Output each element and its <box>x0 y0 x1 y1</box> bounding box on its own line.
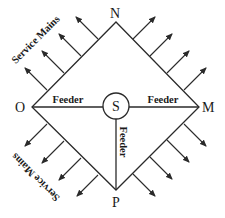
arrow-icon <box>167 51 189 73</box>
service-mains-label-upper: Service Mains <box>9 13 62 66</box>
arrow-icon <box>42 141 64 163</box>
arrow-icon <box>184 68 206 90</box>
node-label-n: N <box>110 6 120 21</box>
arrow-icon <box>150 34 172 56</box>
arrow-icon <box>77 175 98 196</box>
arrow-icon <box>59 158 81 180</box>
arrow-icon <box>76 17 98 39</box>
service-arrows-upper-left <box>25 17 98 90</box>
feeder-label-bottom: Feeder <box>118 127 129 158</box>
arrow-icon <box>184 124 206 146</box>
ring-main-diagram: S N M P O Feeder Feeder Feeder Service M… <box>0 0 225 218</box>
service-mains-label-lower: Service Mains <box>9 151 62 204</box>
arrow-icon <box>25 68 47 90</box>
arrow-icon <box>133 174 155 196</box>
arrow-icon <box>42 51 64 73</box>
service-arrows-lower-right <box>133 124 206 196</box>
arrow-icon <box>150 157 172 179</box>
feeder-label-left: Feeder <box>53 94 84 105</box>
feeder-label-right: Feeder <box>148 94 179 105</box>
substation-label: S <box>112 99 120 114</box>
arrow-icon <box>133 17 155 39</box>
service-arrows-upper-right <box>133 17 206 90</box>
arrow-icon <box>59 34 81 56</box>
arrow-icon <box>167 140 189 162</box>
node-label-m: M <box>202 100 215 115</box>
arrow-icon <box>25 124 47 146</box>
node-label-p: P <box>112 195 120 210</box>
node-label-o: O <box>15 100 25 115</box>
